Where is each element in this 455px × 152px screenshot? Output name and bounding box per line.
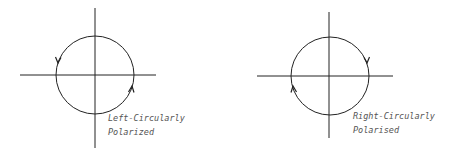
left-polarization-label: Left-Circularly Polarized [108, 111, 185, 139]
right-label-line-2: Polarised [353, 123, 435, 137]
left-label-line-1: Left-Circularly [108, 111, 185, 125]
arrow-down-icon [364, 57, 370, 63]
left-label-line-2: Polarized [108, 125, 185, 139]
right-label-line-1: Right-Circularly [353, 109, 435, 123]
right-polarization-label: Right-Circularly Polarised [353, 109, 435, 137]
arrow-down-icon [56, 57, 62, 63]
